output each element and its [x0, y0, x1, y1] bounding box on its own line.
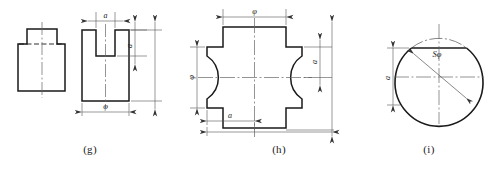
- figure-g-channel-view: a a φ: [82, 11, 162, 116]
- figure-caption-i: (i): [409, 143, 449, 155]
- h-right-arm-label: a: [310, 60, 319, 64]
- sphere-diameter-dim-line: [414, 54, 466, 98]
- stepped-block-outline: [18, 29, 65, 91]
- figure-i: Sφ a: [383, 24, 484, 126]
- h-bottom-arm-label: a: [228, 111, 232, 120]
- figure-g: a a φ: [18, 11, 162, 116]
- i-flat-offset-label: a: [383, 76, 392, 80]
- slot-width-label: a: [104, 11, 108, 20]
- slot-depth-label: a: [125, 44, 134, 48]
- h-left-height-label: φ: [186, 75, 196, 80]
- h-top-width-label: φ: [252, 6, 257, 16]
- overall-width-label: φ: [103, 101, 108, 111]
- figure-g-front-view: [18, 22, 65, 98]
- figure-caption-g: (g): [70, 143, 110, 155]
- technical-drawing-sheet: a a φ φ: [0, 0, 492, 174]
- figure-h: φ φ a a: [186, 6, 334, 137]
- figure-caption-h: (h): [259, 143, 299, 155]
- sphere-diameter-label: Sφ: [433, 49, 442, 59]
